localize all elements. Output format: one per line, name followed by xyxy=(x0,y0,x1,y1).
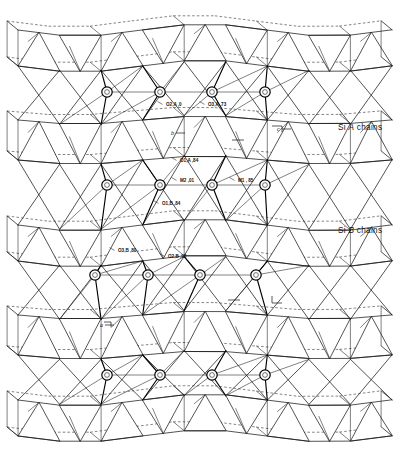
band-end-cap xyxy=(381,111,392,120)
octahedron-edge xyxy=(18,164,60,225)
hidden-back-edge xyxy=(340,216,382,221)
atom-label-m1: M1 , 85 xyxy=(238,178,254,183)
tetrahedron-face xyxy=(350,33,392,72)
octahedron-edge xyxy=(267,164,309,225)
tetrahedron-face xyxy=(143,312,185,354)
side-label-si-b-chains: Si B chains xyxy=(338,226,382,235)
band-bottom xyxy=(7,386,392,442)
tetra-depth-edge xyxy=(90,221,101,230)
cation-bond xyxy=(60,92,107,124)
octahedron-edge xyxy=(18,359,60,400)
cation-site xyxy=(155,180,165,190)
axis-corner-a xyxy=(104,322,111,327)
tetrahedron-face xyxy=(101,122,143,164)
tetra-depth-edge xyxy=(90,62,101,71)
cation-bond xyxy=(160,62,184,92)
tetra-depth-edge xyxy=(90,115,101,124)
cation-site xyxy=(207,87,217,97)
hidden-back-edge xyxy=(132,211,174,216)
hidden-back-edge xyxy=(132,303,174,307)
label-leader xyxy=(172,158,177,161)
tetrahedron-face xyxy=(350,403,392,442)
hidden-back-edge xyxy=(132,16,174,21)
cation-site xyxy=(155,370,165,380)
cation-bond xyxy=(60,275,95,319)
octahedron-edge xyxy=(267,70,309,120)
hidden-back-edge xyxy=(7,391,49,396)
band-end-cap xyxy=(381,306,392,315)
band-end-cap xyxy=(7,346,18,355)
label-leader xyxy=(230,178,235,181)
hidden-back-edge xyxy=(340,111,382,115)
tetrahedron-face xyxy=(184,312,226,352)
tetra-depth-edge xyxy=(173,422,184,431)
hidden-back-edge xyxy=(90,21,132,26)
tetrahedron-face xyxy=(101,317,143,359)
tetrahedron-face xyxy=(143,220,185,259)
cation-bond xyxy=(265,185,267,225)
atom-label-m2: M2 ,01 xyxy=(180,178,194,183)
cation-bond xyxy=(226,92,265,116)
tetra-depth-edge xyxy=(340,349,351,358)
band-bottom-rail xyxy=(18,157,392,164)
crystal-structure-figure: O2,A ,0O3,A ,73O1,A ,84M2 ,01M1 , 85O1,B… xyxy=(0,0,410,459)
cation-bond xyxy=(212,355,267,375)
tetrahedron-face xyxy=(60,124,102,164)
cation-site xyxy=(260,87,270,97)
band-si-b xyxy=(7,211,392,266)
cation-bond xyxy=(107,355,143,375)
tetra-depth-edge xyxy=(90,432,101,441)
axis-label-axis-b-upper: b xyxy=(171,130,174,136)
cation-site xyxy=(251,270,261,280)
tetrahedron-face xyxy=(184,220,226,256)
hidden-back-edge xyxy=(340,306,382,310)
tetra-depth-edge xyxy=(173,16,184,25)
cation-bond xyxy=(101,185,107,229)
hidden-back-edge xyxy=(256,391,298,396)
tetrahedron-face xyxy=(18,228,60,267)
tetrahedron-face xyxy=(18,317,60,359)
band-end-cap xyxy=(7,21,18,30)
tetra-depth-edge xyxy=(340,154,351,163)
band-end-cap xyxy=(7,151,18,160)
label-leader xyxy=(200,102,205,105)
octahedron-edge xyxy=(101,261,143,319)
tetra-depth-edge xyxy=(90,396,101,405)
tetra-depth-edge xyxy=(173,386,184,395)
tetra-depth-edge xyxy=(340,396,351,405)
cation-site xyxy=(155,87,165,97)
hidden-back-edge xyxy=(340,391,382,396)
structure-canvas: O2,A ,0O3,A ,73O1,A ,84M2 ,01M1 , 85O1,B… xyxy=(0,0,410,459)
cation-bond xyxy=(60,375,107,404)
tetra-depth-edge xyxy=(340,26,351,35)
tetrahedron-face xyxy=(18,33,60,72)
tetra-depth-edge xyxy=(340,257,351,266)
cation-bond xyxy=(265,359,309,375)
cation-bond xyxy=(184,185,212,221)
cation-site xyxy=(207,370,217,380)
hidden-back-edge xyxy=(90,391,132,396)
band-end-cap xyxy=(381,391,392,400)
atom-label-o3b: O3,B ,80 xyxy=(118,248,137,253)
band-end-cap xyxy=(7,111,18,120)
axis-label-axis-c-upper: c xyxy=(277,126,280,132)
cation-bond xyxy=(212,66,267,92)
band-end-cap xyxy=(7,216,18,225)
tetra-depth-edge xyxy=(90,257,101,266)
tetrahedron-face xyxy=(350,317,392,359)
cation-bond xyxy=(265,70,309,92)
octahedron-edge xyxy=(350,355,392,404)
tetra-depth-edge xyxy=(256,346,267,355)
polyhedra-layer xyxy=(7,16,392,442)
cation-site xyxy=(102,370,112,380)
hidden-back-edge xyxy=(90,216,132,221)
cation-site xyxy=(260,180,270,190)
tetrahedron-face xyxy=(184,117,226,157)
cation-site xyxy=(102,87,112,97)
atom-label-o1b: O1,B ,84 xyxy=(162,201,181,206)
hidden-back-edge xyxy=(7,216,49,221)
tetrahedron-face xyxy=(60,319,102,359)
band-end-cap xyxy=(7,252,18,261)
octahedron-edge xyxy=(350,160,392,229)
hidden-back-edge xyxy=(340,21,382,26)
